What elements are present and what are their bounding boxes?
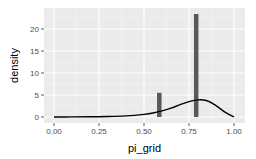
histogram-bar xyxy=(194,14,199,117)
x-tick-label: 0.25 xyxy=(91,127,107,136)
y-tick-label: 5 xyxy=(35,91,40,100)
histogram-bar xyxy=(157,93,162,117)
x-tick-label: 0.50 xyxy=(136,127,152,136)
y-tick-label: 15 xyxy=(30,47,39,56)
x-tick-label: 1.00 xyxy=(226,127,242,136)
chart: 05101520 0.000.250.500.751.00 pi_grid de… xyxy=(0,0,256,159)
y-tick-label: 20 xyxy=(30,25,39,34)
y-tick-label: 0 xyxy=(35,113,40,122)
y-tick-label: 10 xyxy=(30,69,39,78)
x-axis: 0.000.250.500.751.00 xyxy=(46,123,242,136)
y-axis: 05101520 xyxy=(30,25,44,122)
x-tick-label: 0.75 xyxy=(181,127,197,136)
y-axis-title: density xyxy=(8,48,20,83)
x-axis-title: pi_grid xyxy=(128,142,161,154)
x-tick-label: 0.00 xyxy=(46,127,62,136)
